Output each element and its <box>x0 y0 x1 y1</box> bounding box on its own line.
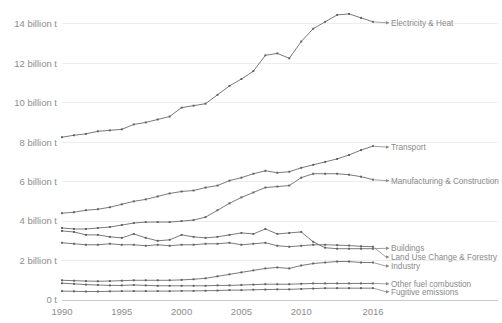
data-point-marker <box>109 236 111 238</box>
data-point-marker <box>324 21 326 23</box>
data-point-marker <box>348 174 350 176</box>
series-label: Industry <box>391 262 421 271</box>
series-leader-line <box>373 263 386 267</box>
data-point-marker <box>85 280 87 282</box>
data-point-marker <box>73 280 75 282</box>
data-point-marker <box>288 185 290 187</box>
y-tick-label: 0 t <box>46 294 57 305</box>
data-point-marker <box>252 289 254 291</box>
data-point-marker <box>181 234 183 236</box>
series-leader-arrowhead <box>386 247 390 250</box>
data-point-marker <box>229 202 231 204</box>
data-point-marker <box>336 14 338 16</box>
data-point-marker <box>157 244 159 246</box>
data-point-marker <box>217 284 219 286</box>
y-tick-label: 2 billion t <box>20 255 58 266</box>
data-point-marker <box>85 209 87 211</box>
data-point-marker <box>312 288 314 290</box>
series-lines-group <box>62 14 373 292</box>
data-point-marker <box>264 267 266 269</box>
data-point-marker <box>73 290 75 292</box>
data-point-marker <box>324 173 326 175</box>
data-point-marker <box>61 227 63 229</box>
data-point-marker <box>97 244 99 246</box>
data-point-marker <box>229 180 231 182</box>
data-point-marker <box>276 245 278 247</box>
data-point-marker <box>252 243 254 245</box>
data-point-marker <box>169 239 171 241</box>
data-point-marker <box>264 283 266 285</box>
data-point-marker <box>193 285 195 287</box>
data-point-marker <box>336 244 338 246</box>
data-point-marker <box>240 177 242 179</box>
y-tick-label: 6 billion t <box>20 176 58 187</box>
data-point-marker <box>85 244 87 246</box>
data-point-marker <box>85 291 87 293</box>
data-point-marker <box>288 171 290 173</box>
data-point-marker <box>240 232 242 234</box>
chart-plot-area: 0 t2 billion t4 billion t6 billion t8 bi… <box>0 0 502 323</box>
data-point-marker <box>312 173 314 175</box>
data-point-marker <box>348 287 350 289</box>
data-point-marker <box>288 246 290 248</box>
data-point-marker <box>276 233 278 235</box>
data-point-marker <box>229 85 231 87</box>
data-point-marker <box>109 206 111 208</box>
data-point-marker <box>240 284 242 286</box>
data-point-marker <box>360 248 362 250</box>
data-point-marker <box>133 123 135 125</box>
data-point-marker <box>324 244 326 246</box>
data-point-marker <box>133 284 135 286</box>
y-tick-label: 4 billion t <box>20 215 58 226</box>
data-point-marker <box>85 133 87 135</box>
data-point-marker <box>193 278 195 280</box>
data-point-marker <box>157 240 159 242</box>
data-point-marker <box>109 129 111 131</box>
data-point-marker <box>73 283 75 285</box>
data-point-marker <box>312 244 314 246</box>
data-point-marker <box>229 242 231 244</box>
data-point-marker <box>240 78 242 80</box>
data-point-marker <box>288 232 290 234</box>
data-point-marker <box>193 290 195 292</box>
data-point-marker <box>181 107 183 109</box>
data-point-marker <box>121 128 123 130</box>
data-point-marker <box>85 284 87 286</box>
data-point-marker <box>240 271 242 273</box>
data-point-marker <box>121 224 123 226</box>
data-point-marker <box>133 244 135 246</box>
data-point-marker <box>145 290 147 292</box>
data-point-marker <box>145 284 147 286</box>
series-line <box>62 229 373 249</box>
data-point-marker <box>276 186 278 188</box>
data-point-marker <box>217 94 219 96</box>
data-point-marker <box>336 158 338 160</box>
data-point-marker <box>169 245 171 247</box>
data-point-marker <box>229 273 231 275</box>
y-axis-tick-labels: 0 t2 billion t4 billion t6 billion t8 bi… <box>14 18 57 305</box>
data-point-marker <box>300 231 302 233</box>
series-leader-arrowhead <box>386 290 390 293</box>
data-point-marker <box>360 176 362 178</box>
data-point-marker <box>73 134 75 136</box>
x-tick-label: 2016 <box>362 306 383 317</box>
x-tick-label: 2000 <box>171 306 192 317</box>
data-point-marker <box>85 228 87 230</box>
data-point-marker <box>264 170 266 172</box>
data-point-marker <box>157 195 159 197</box>
data-point-marker <box>252 269 254 271</box>
data-point-marker <box>73 211 75 213</box>
data-point-marker <box>193 190 195 192</box>
data-point-marker <box>336 287 338 289</box>
data-point-marker <box>61 136 63 138</box>
data-point-marker <box>109 243 111 245</box>
data-point-marker <box>157 221 159 223</box>
data-point-marker <box>121 290 123 292</box>
data-point-marker <box>145 237 147 239</box>
data-point-marker <box>240 196 242 198</box>
data-point-marker <box>121 203 123 205</box>
data-point-marker <box>61 279 63 281</box>
data-point-marker <box>205 103 207 105</box>
x-tick-label: 1990 <box>51 306 72 317</box>
data-point-marker <box>264 228 266 230</box>
